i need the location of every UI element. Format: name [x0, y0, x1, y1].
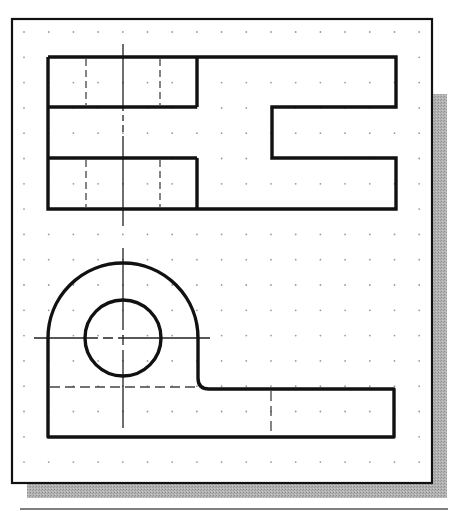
grid-dot — [221, 183, 223, 185]
grid-dot — [23, 284, 25, 286]
grid-dot — [344, 234, 346, 236]
grid-dot — [23, 132, 25, 134]
grid-dot — [221, 82, 223, 84]
grid-dot — [171, 411, 173, 413]
grid-dot — [73, 82, 75, 84]
grid-dot — [221, 234, 223, 236]
grid-dot — [418, 461, 420, 463]
grid-dot — [221, 107, 223, 109]
grid-dot — [418, 132, 420, 134]
grid-dot — [73, 411, 75, 413]
grid-dot — [221, 360, 223, 362]
grid-dot — [295, 335, 297, 337]
grid-dot — [23, 56, 25, 58]
grid-dot — [196, 411, 198, 413]
grid-dot — [418, 411, 420, 413]
grid-dot — [147, 411, 149, 413]
grid-dot — [295, 31, 297, 33]
grid-dot — [270, 234, 272, 236]
grid-dot — [369, 411, 371, 413]
grid-dot — [171, 335, 173, 337]
grid-dot — [295, 132, 297, 134]
grid-dot — [171, 183, 173, 185]
grid-dot — [23, 461, 25, 463]
drawing-canvas — [0, 0, 450, 514]
grid-dot — [122, 461, 124, 463]
grid-dot — [48, 309, 50, 311]
grid-dot — [270, 335, 272, 337]
grid-dot — [295, 82, 297, 84]
grid-dot — [344, 461, 346, 463]
grid-dot — [418, 436, 420, 438]
grid-dot — [245, 461, 247, 463]
grid-dot — [23, 385, 25, 387]
grid-dot — [245, 158, 247, 160]
grid-dot — [97, 461, 99, 463]
grid-dot — [295, 461, 297, 463]
grid-dot — [394, 461, 396, 463]
grid-dot — [196, 31, 198, 33]
grid-dot — [23, 82, 25, 84]
grid-dot — [394, 284, 396, 286]
grid-dot — [23, 436, 25, 438]
grid-dot — [295, 411, 297, 413]
grid-dot — [48, 461, 50, 463]
grid-dot — [147, 259, 149, 261]
grid-dot — [320, 31, 322, 33]
grid-dot — [295, 360, 297, 362]
grid-dot — [221, 132, 223, 134]
grid-dot — [320, 335, 322, 337]
grid-dot — [369, 132, 371, 134]
grid-dot — [369, 284, 371, 286]
grid-dot — [48, 259, 50, 261]
grid-dot — [196, 309, 198, 311]
grid-dot — [418, 31, 420, 33]
grid-dot — [245, 183, 247, 185]
grid-dot — [344, 360, 346, 362]
grid-dot — [344, 82, 346, 84]
grid-dot — [97, 132, 99, 134]
grid-dot — [23, 31, 25, 33]
grid-dot — [394, 259, 396, 261]
grid-dot — [270, 461, 272, 463]
grid-dot — [196, 234, 198, 236]
grid-dot — [23, 335, 25, 337]
grid-dot — [394, 309, 396, 311]
grid-dot — [171, 132, 173, 134]
grid-dot — [245, 259, 247, 261]
grid-dot — [295, 385, 297, 387]
grid-dot — [320, 360, 322, 362]
grid-dot — [171, 31, 173, 33]
grid-dot — [369, 183, 371, 185]
grid-dot — [245, 411, 247, 413]
grid-dot — [270, 284, 272, 286]
grid-dot — [320, 132, 322, 134]
grid-dot — [122, 132, 124, 134]
grid-dot — [245, 132, 247, 134]
grid-dot — [73, 335, 75, 337]
grid-dot — [344, 132, 346, 134]
grid-dot — [97, 82, 99, 84]
grid-dot — [394, 385, 396, 387]
grid-dot — [196, 461, 198, 463]
grid-dot — [97, 335, 99, 337]
grid-dot — [418, 208, 420, 210]
grid-dot — [171, 82, 173, 84]
grid-dot — [73, 183, 75, 185]
grid-dot — [73, 360, 75, 362]
grid-dot — [147, 461, 149, 463]
grid-dot — [48, 284, 50, 286]
grid-dot — [418, 259, 420, 261]
grid-dot — [97, 183, 99, 185]
grid-dot — [23, 107, 25, 109]
grid-dot — [245, 107, 247, 109]
grid-dot — [97, 234, 99, 236]
grid-dot — [73, 461, 75, 463]
grid-dot — [48, 31, 50, 33]
grid-dot — [320, 234, 322, 236]
grid-dot — [196, 385, 198, 387]
grid-dot — [369, 360, 371, 362]
grid-dot — [147, 183, 149, 185]
grid-dot — [270, 31, 272, 33]
grid-dot — [344, 411, 346, 413]
